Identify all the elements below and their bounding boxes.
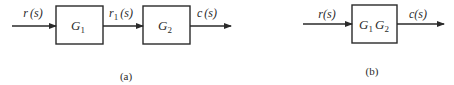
block-g2-label: G2 <box>158 18 172 35</box>
block-g1g2-label: G1G2 <box>359 17 389 34</box>
input-signal-label-a: r(s) <box>23 6 42 20</box>
output-signal-label-a: c(s) <box>197 6 217 20</box>
block-g1-label: G1 <box>71 18 85 35</box>
caption-a: (a) <box>120 70 133 83</box>
caption-b: (b) <box>366 65 379 78</box>
intermediate-signal-label-a: r1(s) <box>109 6 133 22</box>
diagram-a: r(s) G1 r1(s) G2 c(s) (a) <box>12 6 231 83</box>
block-diagram-canvas: r(s) G1 r1(s) G2 c(s) (a) r(s) G1G2 c(s)… <box>0 0 454 85</box>
diagram-b: r(s) G1G2 c(s) (b) <box>303 5 444 78</box>
output-signal-label-b: c(s) <box>409 7 427 21</box>
input-signal-label-b: r(s) <box>318 7 335 21</box>
